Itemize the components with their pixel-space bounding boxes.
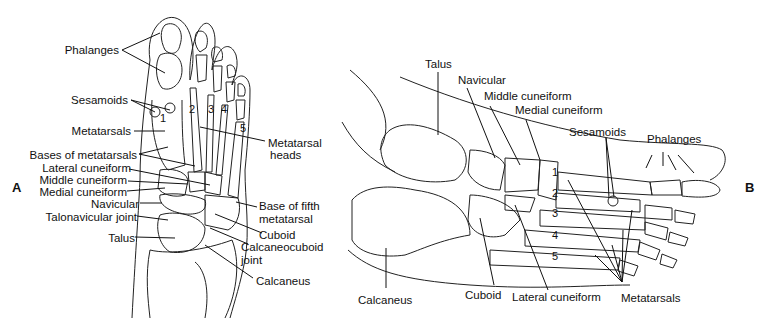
- label-metatarsals-b: Metatarsals: [621, 292, 680, 304]
- label-cuboid-b: Cuboid: [465, 289, 501, 301]
- label-navicular-a: Navicular: [91, 198, 139, 210]
- metatarsal-number-2-b: 2: [552, 187, 558, 199]
- label-metatarsal-heads-line1: Metatarsal: [268, 137, 322, 149]
- label-talonavicular-joint: Talonavicular joint: [46, 211, 137, 223]
- label-sesamoids-a: Sesamoids: [71, 94, 128, 106]
- label-lateral-cuneiform-b: Lateral cuneiform: [512, 291, 601, 303]
- metatarsal-number-2-a: 2: [189, 103, 195, 115]
- label-phalanges-b: Phalanges: [647, 133, 701, 145]
- label-cuboid-a: Cuboid: [259, 229, 295, 241]
- label-medial-cuneiform-b: Medial cuneiform: [515, 104, 603, 116]
- metatarsal-number-5-b: 5: [552, 250, 558, 262]
- label-base-of-fifth-line1: Base of fifth: [259, 200, 320, 212]
- label-middle-cuneiform-b: Middle cuneiform: [484, 90, 572, 102]
- label-calcaneocuboid-line2: joint: [241, 254, 262, 266]
- metatarsal-number-4-b: 4: [552, 229, 558, 241]
- label-base-of-fifth-line2: metatarsal: [259, 213, 313, 225]
- panel-label-b: B: [745, 180, 754, 195]
- label-metatarsals-a: Metatarsals: [72, 125, 131, 137]
- label-bases-of-metatarsals: Bases of metatarsals: [30, 149, 137, 161]
- label-navicular-b: Navicular: [458, 74, 506, 86]
- label-talus-b: Talus: [425, 58, 452, 70]
- label-metatarsal-heads-line2: heads: [270, 149, 301, 161]
- metatarsal-number-3-b: 3: [552, 207, 558, 219]
- label-medial-cuneiform-a: Medial cuneiform: [39, 186, 127, 198]
- metatarsal-number-1-b: 1: [552, 166, 558, 178]
- label-calcaneus-a: Calcaneus: [256, 275, 310, 287]
- label-middle-cuneiform-a: Middle cuneiform: [39, 174, 127, 186]
- label-calcaneus-b: Calcaneus: [358, 294, 412, 306]
- metatarsal-number-5-a: 5: [240, 122, 246, 134]
- foot-anatomy-figure: A B Phalanges Sesamoids Metatarsals Base…: [0, 0, 771, 318]
- label-phalanges-a: Phalanges: [65, 44, 119, 56]
- metatarsal-number-4-a: 4: [221, 103, 227, 115]
- metatarsal-number-3-a: 3: [208, 103, 214, 115]
- label-talus-a: Talus: [108, 232, 135, 244]
- label-calcaneocuboid-line1: Calcaneocuboid: [241, 241, 323, 253]
- label-sesamoids-b: Sesamoids: [569, 126, 626, 138]
- metatarsal-number-1-a: 1: [160, 112, 166, 124]
- label-lateral-cuneiform-a: Lateral cuneiform: [42, 162, 131, 174]
- panel-label-a: A: [12, 180, 21, 195]
